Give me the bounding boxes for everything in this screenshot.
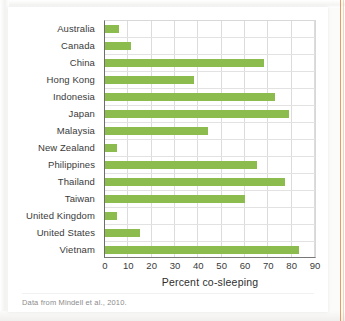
category-label: Malaysia	[57, 126, 95, 136]
category-label: Canada	[61, 41, 95, 51]
category-axis-labels: AustraliaCanadaChinaHong KongIndonesiaJa…	[8, 20, 100, 258]
page-edge-bottom	[0, 311, 345, 321]
category-label: Vietnam	[60, 245, 95, 255]
figure-divider	[22, 293, 314, 294]
plot-frame	[104, 20, 316, 258]
category-label: Australia	[57, 24, 95, 34]
category-label: United States	[37, 228, 95, 238]
x-tick-label: 50	[216, 260, 227, 271]
plot-area	[104, 20, 316, 258]
page-margin-rule-secondary	[343, 0, 344, 321]
category-label: China	[70, 58, 95, 68]
figure-card: AustraliaCanadaChinaHong KongIndonesiaJa…	[8, 7, 328, 312]
category-label: Japan	[69, 109, 95, 119]
x-tick-label: 90	[310, 260, 321, 271]
category-label: Taiwan	[65, 194, 95, 204]
category-label: United Kingdom	[26, 211, 95, 221]
x-tick-label: 20	[146, 260, 157, 271]
category-label: New Zealand	[38, 143, 95, 153]
x-tick-label: 0	[102, 260, 107, 271]
x-tick-label: 40	[193, 260, 204, 271]
category-label: Hong Kong	[47, 75, 95, 85]
source-note: Data from Mindell et al., 2010.	[22, 298, 127, 307]
bar-chart: AustraliaCanadaChinaHong KongIndonesiaJa…	[8, 7, 328, 312]
x-axis-title: Percent co-sleeping	[104, 276, 316, 288]
category-label: Thailand	[58, 177, 95, 187]
x-tick-label: 10	[123, 260, 134, 271]
value-axis-tick-labels: 0102030405060708090	[104, 260, 316, 274]
x-tick-label: 80	[286, 260, 297, 271]
x-tick-label: 30	[170, 260, 181, 271]
x-tick-label: 70	[263, 260, 274, 271]
x-tick-label: 60	[240, 260, 251, 271]
category-label: Philippines	[48, 160, 95, 170]
category-label: Indonesia	[53, 92, 95, 102]
page-margin-rule	[340, 0, 341, 321]
